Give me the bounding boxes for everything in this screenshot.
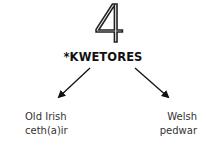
branch-language: Welsh [155,110,197,124]
branch-welsh: Welsh pedwar [155,110,197,138]
arrow-left [59,68,90,97]
branch-language: Old Irish [25,110,68,124]
branch-word: ceth(a)ir [25,124,68,138]
branch-word: pedwar [155,124,197,138]
arrow-right [135,68,168,97]
branch-old-irish: Old Irish ceth(a)ir [25,110,68,138]
